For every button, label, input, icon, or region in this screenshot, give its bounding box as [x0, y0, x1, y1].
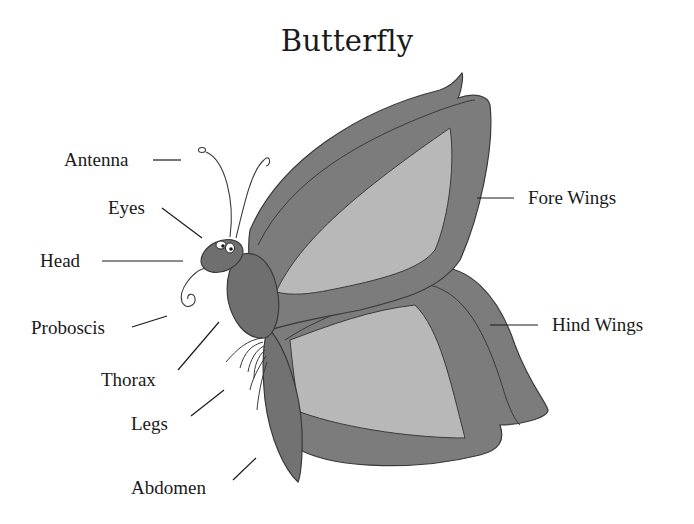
- legs-shape: [226, 338, 267, 410]
- label-fore-wings: Fore Wings: [528, 188, 616, 207]
- label-eyes: Eyes: [108, 198, 145, 217]
- label-proboscis: Proboscis: [31, 318, 105, 337]
- label-abdomen: Abdomen: [131, 478, 206, 497]
- label-antenna: Antenna: [64, 150, 128, 169]
- proboscis-shape: [181, 268, 205, 306]
- label-legs: Legs: [131, 414, 168, 433]
- label-hind-wings: Hind Wings: [552, 315, 643, 334]
- label-thorax: Thorax: [101, 370, 156, 389]
- label-head: Head: [40, 251, 80, 270]
- butterfly-illustration: [0, 0, 694, 524]
